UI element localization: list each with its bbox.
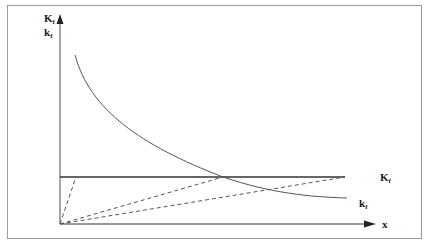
y-label-upper: Kf	[44, 13, 55, 26]
dashed-ray-2	[60, 177, 223, 224]
y-axis-arrow-icon	[57, 14, 64, 24]
kf-upper-label: Kf	[380, 172, 391, 185]
dashed-ray-3	[60, 177, 345, 224]
dashed-ray-1	[60, 177, 76, 224]
x-axis-label: x	[382, 219, 388, 230]
x-axis-arrow-icon	[364, 221, 376, 228]
kf-lower-label: kf	[359, 198, 367, 211]
y-label-lower: kf	[44, 27, 52, 40]
